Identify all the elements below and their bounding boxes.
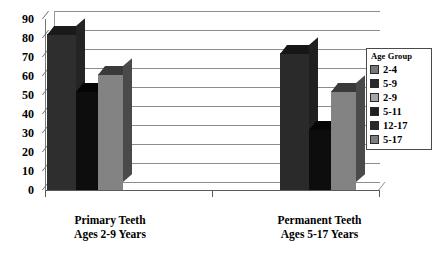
y-tick-label: 90 (2, 14, 34, 24)
x-axis-tick (379, 190, 380, 197)
legend-item-label: 2-9 (383, 92, 397, 103)
y-tick-label: 10 (2, 166, 34, 176)
legend-swatch-icon (370, 107, 379, 116)
legend-swatch-icon (370, 135, 379, 144)
y-tick-label: 40 (2, 109, 34, 119)
bar-front-face (47, 34, 76, 190)
gridline (54, 11, 380, 12)
x-axis-label-line1: Permanent Teeth (232, 213, 407, 227)
legend-swatch-icon (370, 93, 379, 102)
bar-front-face (76, 91, 98, 190)
x-axis-tick (45, 190, 46, 197)
y-tick-label: 50 (2, 90, 34, 100)
bar-front-face (280, 53, 309, 190)
bar-permanent-5-17 (331, 91, 356, 190)
legend-item-label: 12-17 (383, 120, 408, 131)
bar-permanent-12-17 (309, 129, 331, 190)
x-axis-tick (212, 190, 213, 197)
legend-item[interactable]: 2-9 (370, 90, 428, 104)
legend: Age Group 2-4 5-9 2-9 5-11 12-17 5-17 (366, 48, 432, 150)
x-axis-label-permanent: Permanent Teeth Ages 5-17 Years (232, 213, 407, 241)
x-axis-label-primary: Primary Teeth Ages 2-9 Years (30, 213, 190, 241)
bar-side-face (356, 75, 365, 182)
legend-swatch-icon (370, 121, 379, 130)
bar-primary-2-9 (98, 74, 123, 190)
bar-side-face (123, 58, 132, 182)
bar-permanent-5-11 (280, 53, 309, 190)
x-axis-label-line1: Primary Teeth (30, 213, 190, 227)
y-tick-label: 30 (2, 128, 34, 138)
legend-item-label: 2-4 (383, 64, 397, 75)
legend-title: Age Group (370, 51, 428, 62)
legend-item-label: 5-17 (383, 134, 402, 145)
gridline (54, 30, 380, 31)
legend-item[interactable]: 5-9 (370, 76, 428, 90)
y-tick-label: 0 (2, 185, 34, 195)
legend-item[interactable]: 2-4 (370, 62, 428, 76)
x-axis-label-line2: Ages 2-9 Years (30, 227, 190, 241)
bar-chart: 90 80 70 60 50 40 30 20 10 0 (0, 0, 437, 259)
legend-item[interactable]: 5-17 (370, 132, 428, 146)
legend-swatch-icon (370, 65, 379, 74)
y-tick-label: 60 (2, 71, 34, 81)
bar-primary-2-4 (47, 34, 76, 190)
y-tick-label: 80 (2, 33, 34, 43)
y-tick-label: 70 (2, 52, 34, 62)
legend-item[interactable]: 12-17 (370, 118, 428, 132)
bar-front-face (98, 74, 123, 190)
legend-item-label: 5-11 (383, 106, 402, 117)
bar-front-face (331, 91, 356, 190)
bar-primary-5-9 (76, 91, 98, 190)
gridline (54, 49, 380, 50)
x-axis-label-line2: Ages 5-17 Years (232, 227, 407, 241)
legend-item-label: 5-9 (383, 78, 397, 89)
y-tick-label: 20 (2, 147, 34, 157)
legend-item[interactable]: 5-11 (370, 104, 428, 118)
legend-swatch-icon (370, 79, 379, 88)
y-axis: 90 80 70 60 50 40 30 20 10 0 (0, 10, 34, 190)
bar-front-face (309, 129, 331, 190)
